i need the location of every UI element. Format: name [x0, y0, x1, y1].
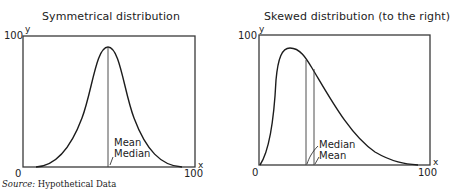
source-prefix: Source: — [2, 179, 35, 189]
right-chart-frame — [259, 35, 430, 165]
left-chart-frame — [23, 36, 195, 167]
left-symmetric-curve — [36, 47, 182, 167]
right-mean-pointer — [315, 157, 319, 164]
left-pointer-arrow — [110, 157, 113, 165]
source-text: Hypothetical Data — [38, 179, 116, 189]
right-skewed-curve — [260, 48, 418, 165]
source-note: Source: Hypothetical Data — [2, 179, 116, 189]
